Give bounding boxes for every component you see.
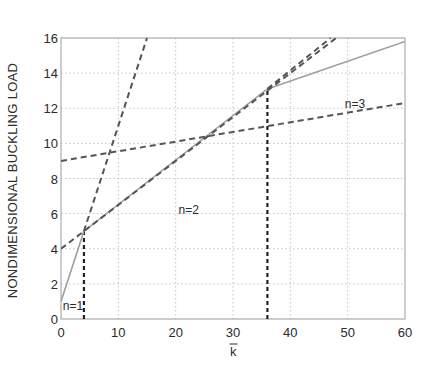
x-tick-label: 50 bbox=[340, 325, 354, 340]
chart-background bbox=[0, 0, 430, 379]
mode-annotation: n=1 bbox=[63, 299, 84, 313]
y-tick-label: 12 bbox=[44, 101, 58, 116]
buckling-load-chart: 0102030405060 0246810121416 n=1n=2n=3 k … bbox=[0, 0, 430, 379]
x-tick-label: 40 bbox=[283, 325, 297, 340]
y-tick-label: 10 bbox=[44, 136, 58, 151]
x-axis-label-text: k bbox=[230, 344, 237, 359]
y-tick-label: 6 bbox=[51, 207, 58, 222]
y-tick-label: 4 bbox=[51, 242, 58, 257]
x-tick-label: 60 bbox=[398, 325, 412, 340]
y-tick-label: 0 bbox=[51, 312, 58, 327]
y-tick-label: 16 bbox=[44, 31, 58, 46]
x-axis-label: k bbox=[230, 344, 238, 359]
y-tick-label: 2 bbox=[51, 277, 58, 292]
y-axis-label: NONDIMENSIONAL BUCKLING LOAD bbox=[5, 63, 20, 298]
y-tick-label: 8 bbox=[51, 172, 58, 187]
mode-annotation: n=2 bbox=[179, 203, 200, 217]
x-tick-label: 30 bbox=[226, 325, 240, 340]
mode-annotation: n=3 bbox=[345, 97, 366, 111]
y-tick-label: 14 bbox=[44, 66, 58, 81]
x-tick-label: 20 bbox=[168, 325, 182, 340]
x-tick-label: 10 bbox=[111, 325, 125, 340]
x-tick-label: 0 bbox=[57, 325, 64, 340]
